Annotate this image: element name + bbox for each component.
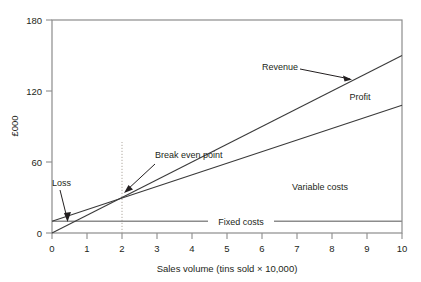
y-tick-label-0: 0 xyxy=(37,228,42,239)
revenue-label: Revenue xyxy=(262,62,298,72)
y-axis-title: £000 xyxy=(9,115,20,136)
x-tick-label-9: 9 xyxy=(364,243,369,254)
x-tick-label-0: 0 xyxy=(49,243,54,254)
y-tick-label-180: 180 xyxy=(26,15,42,26)
x-tick-label-2: 2 xyxy=(119,243,124,254)
x-tick-label-6: 6 xyxy=(259,243,264,254)
x-tick-label-5: 5 xyxy=(224,243,229,254)
x-tick-label-1: 1 xyxy=(84,243,89,254)
break-even-point-label: Break even point xyxy=(155,150,223,160)
x-tick-label-4: 4 xyxy=(189,243,194,254)
x-tick-label-10: 10 xyxy=(397,243,408,254)
variable-costs-label: Variable costs xyxy=(292,182,348,192)
x-axis-ticks xyxy=(52,233,402,239)
profit-label: Profit xyxy=(349,92,371,102)
x-tick-label-7: 7 xyxy=(294,243,299,254)
x-tick-label-8: 8 xyxy=(329,243,334,254)
x-tick-label-3: 3 xyxy=(154,243,159,254)
fixed-costs-label: Fixed costs xyxy=(218,217,264,227)
y-axis-ticks xyxy=(46,20,52,233)
y-tick-label-60: 60 xyxy=(31,157,42,168)
y-tick-label-120: 120 xyxy=(26,86,42,97)
break-even-chart: 180 120 60 0 £000 0 1 2 3 4 5 6 7 8 9 xyxy=(0,0,421,282)
plot-frame xyxy=(52,20,402,233)
x-axis-title: Sales volume (tins sold × 10,000) xyxy=(157,263,298,274)
loss-label: Loss xyxy=(52,178,72,188)
plot-area-border xyxy=(52,20,402,233)
chart-canvas: 180 120 60 0 £000 0 1 2 3 4 5 6 7 8 9 xyxy=(0,0,421,282)
